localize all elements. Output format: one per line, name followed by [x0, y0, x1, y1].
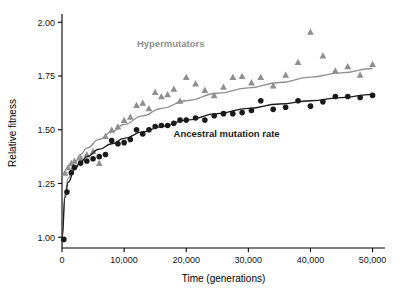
data-point-triangle	[170, 86, 177, 92]
data-point-triangle	[307, 29, 314, 35]
data-point-circle	[103, 152, 109, 158]
data-point-triangle	[183, 74, 190, 80]
series-label-ancestral: Ancestral mutation rate	[174, 128, 280, 139]
data-point-triangle	[146, 105, 153, 111]
data-point-circle	[134, 127, 140, 133]
data-point-circle	[230, 111, 236, 117]
x-tick-label: 40,000	[297, 255, 325, 265]
data-point-triangle	[239, 73, 246, 79]
data-point-circle	[159, 123, 165, 129]
data-point-circle	[370, 93, 376, 99]
data-point-triangle	[229, 74, 236, 80]
data-point-circle	[211, 113, 217, 119]
data-point-circle	[193, 115, 199, 121]
data-point-circle	[183, 117, 189, 123]
data-point-triangle	[357, 72, 364, 78]
data-point-triangle	[295, 59, 302, 65]
data-point-circle	[270, 107, 276, 113]
data-point-triangle	[164, 91, 171, 97]
series-fit-line	[62, 69, 373, 238]
data-point-circle	[128, 137, 134, 143]
data-point-circle	[121, 140, 127, 146]
y-tick-label: 1.75	[37, 71, 55, 81]
data-point-circle	[258, 98, 264, 104]
x-tick-label: 20,000	[172, 255, 200, 265]
data-point-triangle	[369, 61, 376, 67]
data-point-circle	[72, 165, 78, 171]
data-point-circle	[221, 111, 227, 117]
data-point-circle	[115, 141, 121, 147]
data-point-circle	[69, 170, 75, 176]
fitness-scatter-plot: 1.001.251.501.752.00010,00020,00030,0004…	[0, 0, 402, 296]
x-axis-title: Time (generations)	[182, 273, 266, 284]
data-point-circle	[64, 189, 70, 195]
data-point-circle	[84, 158, 90, 164]
data-point-circle	[333, 94, 339, 100]
data-point-triangle	[192, 80, 199, 86]
data-point-circle	[249, 108, 255, 114]
data-point-circle	[171, 121, 177, 127]
x-tick-label: 30,000	[235, 255, 263, 265]
data-point-triangle	[248, 79, 255, 85]
data-point-circle	[96, 154, 102, 160]
data-point-triangle	[220, 83, 227, 89]
data-point-triangle	[127, 113, 134, 119]
data-point-circle	[202, 117, 208, 123]
data-point-triangle	[319, 52, 326, 58]
series-ancestral	[61, 93, 375, 243]
data-point-circle	[357, 95, 363, 101]
data-point-circle	[165, 123, 171, 129]
data-point-circle	[78, 160, 84, 166]
series-fit-line	[62, 94, 373, 238]
y-axis-title: Relative fitness	[7, 99, 18, 167]
data-point-circle	[90, 156, 96, 162]
data-point-triangle	[121, 117, 128, 123]
chart-container: 1.001.251.501.752.00010,00020,00030,0004…	[0, 0, 402, 296]
data-point-triangle	[96, 160, 103, 166]
x-tick-label: 50,000	[359, 255, 387, 265]
data-point-triangle	[62, 169, 69, 175]
y-tick-label: 2.00	[37, 18, 55, 28]
data-point-circle	[140, 131, 146, 137]
data-point-circle	[345, 94, 351, 100]
data-point-triangle	[282, 72, 289, 78]
y-tick-label: 1.00	[37, 233, 55, 243]
series-label-hypermutators: Hypermutators	[137, 38, 205, 49]
x-tick-label: 10,000	[110, 255, 138, 265]
data-point-circle	[283, 104, 289, 110]
y-tick-label: 1.50	[37, 125, 55, 135]
data-point-triangle	[152, 89, 159, 95]
data-point-circle	[61, 237, 67, 243]
data-point-triangle	[332, 67, 339, 73]
data-point-circle	[152, 124, 158, 130]
data-point-circle	[109, 138, 115, 144]
data-point-circle	[177, 117, 183, 123]
data-point-triangle	[139, 100, 146, 106]
data-point-triangle	[158, 93, 165, 99]
data-point-circle	[146, 127, 152, 133]
data-point-triangle	[344, 63, 351, 69]
data-point-circle	[308, 103, 314, 109]
y-tick-label: 1.25	[37, 179, 55, 189]
data-point-circle	[295, 98, 301, 104]
data-point-triangle	[108, 126, 115, 132]
x-tick-label: 0	[59, 255, 64, 265]
data-point-triangle	[201, 87, 208, 93]
data-point-triangle	[257, 74, 264, 80]
data-point-circle	[320, 99, 326, 105]
data-point-circle	[239, 110, 245, 116]
data-point-triangle	[133, 102, 140, 108]
